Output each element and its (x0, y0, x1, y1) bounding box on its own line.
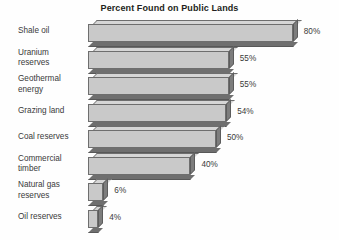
bar-bottom-face (88, 228, 103, 233)
bar-front-face (88, 51, 229, 69)
bar-2 (88, 47, 234, 74)
bar-8 (88, 206, 103, 233)
value-label: 55% (240, 54, 256, 64)
bar-front-face (88, 130, 216, 148)
category-label: Oil reserves (18, 212, 84, 223)
value-label: 40% (201, 160, 217, 170)
bar-front-face (88, 157, 190, 175)
bar-7 (88, 179, 108, 206)
bar-row: Commercial timber40% (0, 153, 339, 180)
bar-row: Shale oil80% (0, 20, 339, 47)
bar-right-face (103, 178, 108, 201)
category-label: Natural gas reserves (18, 180, 84, 201)
bar-chart-figure: Percent Found on Public Lands Shale oil8… (0, 0, 339, 240)
bar-1 (88, 20, 298, 47)
bar-front-face (88, 24, 293, 42)
bar-5 (88, 126, 221, 153)
value-label: 55% (240, 80, 256, 90)
category-label: Shale oil (18, 26, 84, 37)
bar-right-face (216, 125, 221, 148)
bar-front-face (88, 183, 103, 201)
bar-front-face (88, 77, 229, 95)
bar-right-face (190, 152, 195, 175)
category-label: Geothermal energy (18, 74, 84, 95)
value-label: 6% (114, 186, 126, 196)
plot-area: Shale oil80%Uranium reserves55%Geotherma… (0, 18, 339, 240)
value-label: 54% (237, 107, 253, 117)
bar-row: Uranium reserves55% (0, 47, 339, 74)
bar-right-face (229, 72, 234, 95)
bar-right-face (226, 99, 231, 122)
bar-row: Grazing land54% (0, 100, 339, 127)
bar-row: Oil reserves4% (0, 206, 339, 233)
bar-right-face (229, 46, 234, 69)
bar-row: Natural gas reserves6% (0, 179, 339, 206)
bar-right-face (98, 205, 103, 228)
category-label: Commercial timber (18, 154, 84, 175)
bar-row: Geothermal energy55% (0, 73, 339, 100)
bar-row: Coal reserves50% (0, 126, 339, 153)
value-label: 4% (109, 213, 121, 223)
bar-4 (88, 100, 231, 127)
category-label: Grazing land (18, 106, 84, 117)
bar-front-face (88, 104, 226, 122)
value-label: 80% (304, 27, 320, 37)
category-label: Coal reserves (18, 132, 84, 143)
value-label: 50% (227, 133, 243, 143)
category-label: Uranium reserves (18, 48, 84, 69)
bar-front-face (88, 210, 98, 228)
bar-right-face (293, 19, 298, 42)
chart-title: Percent Found on Public Lands (0, 3, 339, 13)
bar-6 (88, 153, 195, 180)
bar-3 (88, 73, 234, 100)
